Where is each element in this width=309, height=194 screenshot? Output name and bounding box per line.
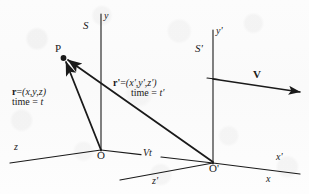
frame-label-s: S (83, 20, 89, 31)
r-prime-vector-annotation: r'=(x',y',z') time = t' (113, 78, 164, 98)
separation-line-right (161, 157, 213, 163)
origin-label-o: O (97, 150, 105, 161)
origin-label-o-prime: O' (209, 163, 219, 174)
axis-label-y: y (104, 11, 108, 21)
velocity-vector-line[interactable] (213, 79, 300, 92)
r-time-line: time = t (12, 97, 46, 107)
relativity-frames-figure: S y z O S' y' z' x' x O' P V Vt r=(x,y,z… (0, 0, 309, 194)
r-prime-time-value: t' (159, 87, 164, 98)
separation-label-vt: Vt (142, 148, 153, 158)
z-axis-line (10, 150, 101, 163)
axis-label-x: x (266, 174, 270, 184)
axis-label-x-prime: x' (276, 152, 283, 162)
r-prime-time-line: time = t' (113, 88, 164, 98)
x-prime-axis-line (213, 163, 300, 174)
r-prime-time-label: time = (131, 87, 157, 98)
axis-label-z-prime: z' (152, 176, 158, 186)
r-prime-vector-line[interactable] (68, 60, 213, 162)
separation-line-left (101, 150, 141, 155)
r-vector-line[interactable] (66, 62, 101, 150)
r-time-value: t (40, 96, 43, 107)
axis-label-z: z (14, 142, 18, 152)
point-label-p: P (55, 43, 61, 54)
z-prime-axis-line (120, 163, 213, 180)
axis-label-y-prime: y' (216, 26, 223, 36)
r-time-label: time = (12, 96, 38, 107)
frame-label-s-prime: S' (195, 43, 203, 54)
point-p-marker (61, 55, 67, 61)
velocity-vector-label: V (253, 69, 261, 80)
velocity-tick (207, 78, 219, 80)
r-vector-annotation: r=(x,y,z) time = t (12, 87, 46, 107)
